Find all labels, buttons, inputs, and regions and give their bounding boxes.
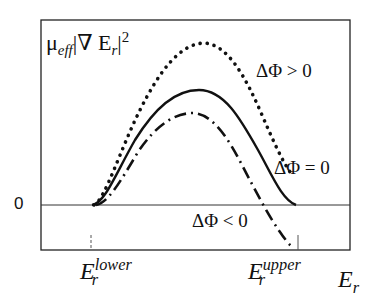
zero-tick-label: 0 bbox=[14, 194, 23, 214]
xt-upper-sup: upper bbox=[263, 255, 301, 274]
label-delta-phi-positive: ΔΦ > 0 bbox=[256, 60, 312, 82]
x-axis-label: Er bbox=[338, 266, 359, 293]
y-label-mu: μ bbox=[46, 30, 58, 55]
y-label-mid: |∇ E bbox=[73, 30, 112, 55]
y-label-exp: 2 bbox=[122, 29, 129, 45]
y-label-eff: eff bbox=[58, 42, 73, 58]
x-label-sub: r bbox=[353, 278, 359, 297]
xt-lower-sup: lower bbox=[95, 255, 132, 274]
xt-lower-sub: r bbox=[92, 270, 98, 289]
label-delta-phi-negative: ΔΦ < 0 bbox=[192, 210, 248, 232]
x-label-base: E bbox=[338, 266, 353, 292]
x-tick-label-lower: Elowerr bbox=[80, 258, 98, 285]
y-label-grad: |∇ E bbox=[73, 30, 112, 55]
label-delta-phi-zero: ΔΦ = 0 bbox=[274, 157, 330, 179]
x-tick-label-upper: Eupperr bbox=[248, 258, 265, 285]
xt-upper-sub: r bbox=[259, 270, 265, 289]
y-axis-label: μeff|∇ Er|2 bbox=[46, 30, 129, 56]
